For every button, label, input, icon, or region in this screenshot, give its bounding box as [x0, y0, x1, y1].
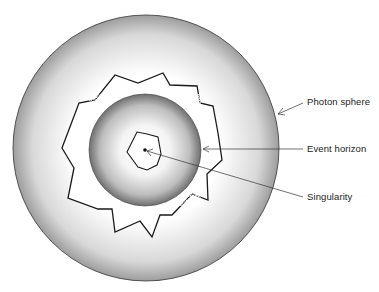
- event-horizon-label: Event horizon: [307, 143, 366, 154]
- photon-sphere-leader: [278, 103, 303, 114]
- singularity-point: [143, 148, 147, 152]
- black-hole-diagram: Photon sphere Event horizon Singularity: [0, 0, 379, 292]
- singularity-label: Singularity: [307, 191, 352, 202]
- photon-sphere-label: Photon sphere: [307, 96, 370, 107]
